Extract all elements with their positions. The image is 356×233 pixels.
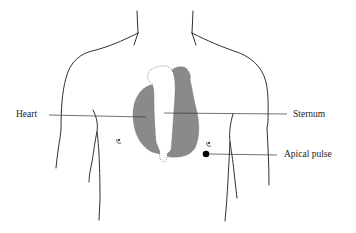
apical-pulse-leader-line [209, 154, 277, 155]
sternum-label: Sternum [293, 110, 325, 120]
chest-diagram: Heart Sternum Apical pulse [0, 0, 356, 233]
apical-pulse-dot [203, 151, 210, 158]
heart-leader-line [49, 115, 146, 117]
heart-label: Heart [16, 110, 37, 120]
apical-pulse-label: Apical pulse [284, 150, 332, 160]
